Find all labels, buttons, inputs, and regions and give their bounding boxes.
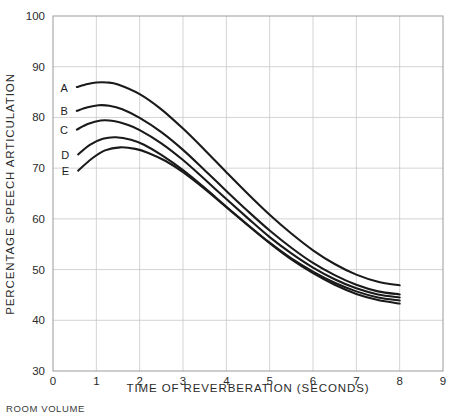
curve-label-c: C: [60, 124, 68, 136]
x-tick-9: 9: [440, 375, 446, 387]
y-tick-30: 30: [32, 365, 45, 377]
curve-label-a: A: [60, 82, 68, 94]
x-tick-0: 0: [50, 375, 56, 387]
y-axis-tick-labels: 30405060708090100: [26, 10, 45, 377]
y-tick-70: 70: [32, 162, 45, 174]
curve-label-d: D: [61, 149, 69, 161]
y-tick-80: 80: [32, 111, 45, 123]
curve-label-b: B: [60, 105, 67, 117]
y-tick-90: 90: [32, 61, 45, 73]
y-tick-100: 100: [26, 10, 45, 22]
x-tick-1: 1: [93, 375, 99, 387]
speech-articulation-chart: 0123456789 30405060708090100 ABCDE TIME …: [0, 0, 458, 419]
curve-labels: ABCDE: [60, 82, 69, 178]
curve-series-a: [77, 82, 400, 285]
y-axis-title: PERCENTAGE SPEECH ARTICULATION: [4, 73, 16, 315]
curve-series-b: [77, 105, 400, 294]
x-tick-8: 8: [396, 375, 402, 387]
y-tick-60: 60: [32, 213, 45, 225]
curve-series-group: [77, 82, 400, 303]
curve-series-e: [78, 147, 400, 303]
room-volume-footnote: ROOM VOLUME: [6, 403, 85, 414]
y-tick-50: 50: [32, 264, 45, 276]
chart-figure: 0123456789 30405060708090100 ABCDE TIME …: [0, 0, 458, 419]
curve-label-e: E: [62, 165, 69, 177]
y-tick-40: 40: [32, 314, 45, 326]
x-axis-title: TIME OF REVERBERATION (SECONDS): [126, 382, 369, 394]
